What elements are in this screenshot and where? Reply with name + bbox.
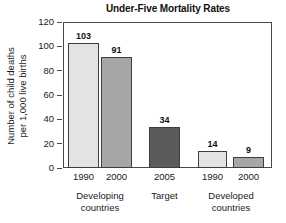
group-label-line: Developed (176, 190, 286, 202)
bar-2000-4 (233, 157, 264, 168)
x-axis-tick-label-4: 2000 (229, 171, 268, 182)
y-axis-tick-mark (57, 22, 62, 23)
x-axis-tick-label-1: 2000 (97, 171, 136, 182)
y-axis-tick-label: 100 (26, 40, 54, 51)
y-axis-tick-mark (57, 46, 62, 47)
bar-value-label: 14 (198, 139, 227, 149)
y-axis-tick-label: 0 (26, 162, 54, 173)
bar-1990-0 (68, 43, 99, 168)
bar-value-label: 34 (149, 115, 180, 125)
y-axis-tick-label: 20 (26, 138, 54, 149)
y-axis-tick-mark (57, 168, 62, 169)
y-axis-tick-mark (57, 143, 62, 144)
y-axis-tick-label: 120 (26, 16, 54, 27)
group-label-2: Developedcountries (176, 190, 286, 213)
chart-container: Under-Five Mortality Rates Number of chi… (0, 0, 286, 223)
x-axis-tick-label-2: 2005 (145, 171, 184, 182)
y-axis-tick-mark (57, 70, 62, 71)
y-axis-tick-mark (57, 95, 62, 96)
group-label-line: countries (176, 202, 286, 214)
bar-value-label: 91 (101, 45, 132, 55)
y-axis-tick-label: 80 (26, 65, 54, 76)
y-axis-label-line-1: Number of child deaths (5, 47, 17, 145)
bar-2000-1 (101, 57, 132, 168)
group-label-line: countries (45, 202, 155, 214)
y-axis-tick-label: 40 (26, 113, 54, 124)
y-axis-tick-label: 60 (26, 89, 54, 100)
chart-title: Under-Five Mortality Rates (63, 3, 273, 14)
bars-layer: 1039134149 (63, 22, 272, 168)
bar-value-label: 103 (68, 31, 99, 41)
bar-2005-2 (149, 127, 180, 168)
bar-value-label: 9 (233, 145, 264, 155)
bar-1990-3 (198, 151, 227, 168)
x-axis-tick-label-3: 1990 (194, 171, 231, 182)
y-axis-tick-mark (57, 119, 62, 120)
